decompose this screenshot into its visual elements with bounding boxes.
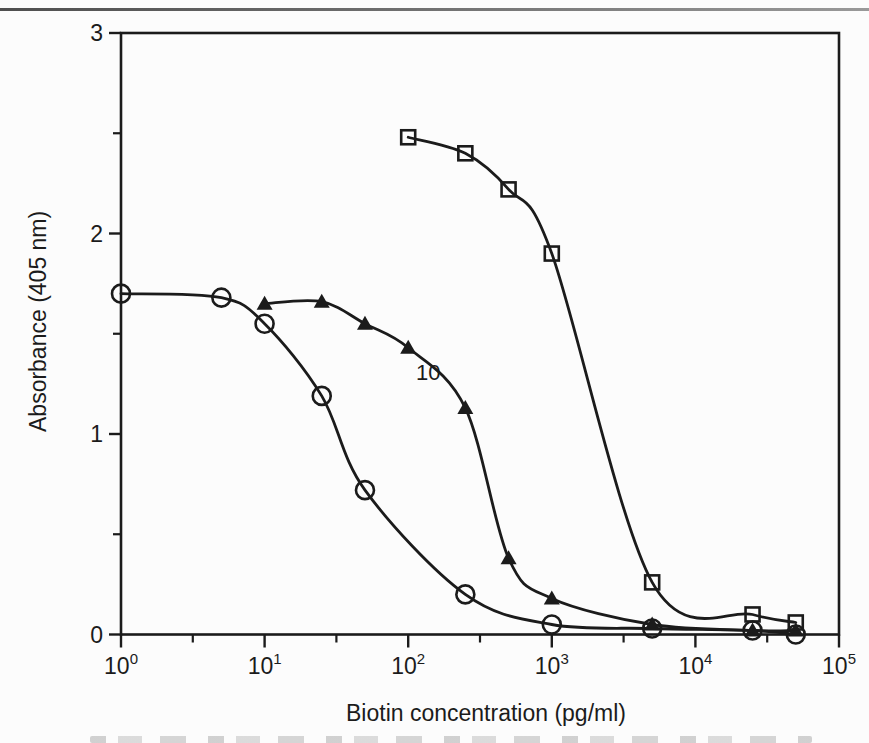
series-filled-triangle-curve <box>257 294 804 637</box>
marker-filled-triangle <box>357 316 373 330</box>
x-axis-title: Biotin concentration (pg/ml) <box>306 700 666 727</box>
x-tick-label: 105 <box>822 650 856 679</box>
y-tick-label: 2 <box>90 221 103 247</box>
marker-filled-triangle <box>501 550 517 564</box>
x-tick-label: 100 <box>104 650 138 679</box>
marker-filled-triangle <box>457 400 473 414</box>
x-tick-label: 102 <box>391 650 425 679</box>
x-tick-label: 101 <box>248 650 282 679</box>
biotin-dose-response-chart: 100101102103104105012310 Absorbance (405… <box>0 0 869 743</box>
plot-area: 100101102103104105012310 <box>0 0 869 743</box>
y-axis-title: Absorbance (405 nm) <box>25 216 51 432</box>
x-tick-label: 104 <box>678 650 712 679</box>
open-circle-curve-line <box>121 294 796 635</box>
series-open-circle-curve <box>112 285 805 644</box>
filled-triangle-curve-line <box>265 301 796 631</box>
scanned-figure-page: 100101102103104105012310 Absorbance (405… <box>0 0 869 743</box>
plot-frame <box>121 33 839 635</box>
y-tick-label: 0 <box>90 622 103 648</box>
y-axis-ticks: 0123 <box>90 20 121 648</box>
cropped-caption-remnant <box>90 736 812 743</box>
series-open-square-curve <box>401 130 803 629</box>
x-tick-label: 103 <box>535 650 569 679</box>
x-axis-ticks: 100101102103104105 <box>104 635 856 680</box>
open-square-curve-line <box>408 137 796 622</box>
y-tick-label: 3 <box>90 20 103 46</box>
curve-annotation: 10 <box>416 360 440 385</box>
y-tick-label: 1 <box>90 421 103 447</box>
